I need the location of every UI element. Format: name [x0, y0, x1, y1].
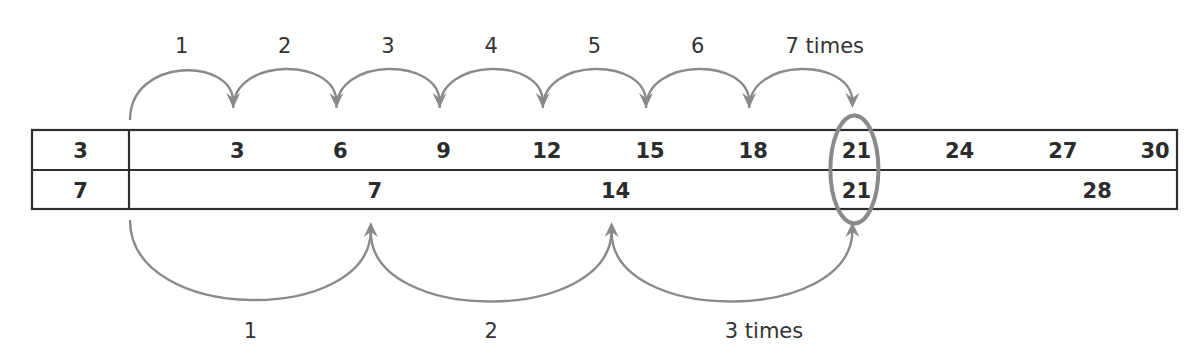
jump-label-top: 3 — [381, 34, 394, 58]
jump-label-bottom: 3 times — [725, 319, 803, 343]
cell-value: 3 — [230, 139, 245, 163]
cell-value: 27 — [1048, 139, 1077, 163]
jump-label-top: 4 — [485, 34, 498, 58]
cell-value: 7 — [367, 179, 382, 203]
jump-arc-top — [543, 69, 646, 108]
jump-arc-top — [440, 69, 543, 108]
cell-value: 30 — [1140, 139, 1169, 163]
jump-arc-top — [233, 69, 336, 108]
bottom-jump-arrows: 123 times — [130, 220, 859, 343]
jump-label-top: 7 times — [786, 34, 864, 58]
jump-label-bottom: 1 — [244, 319, 257, 343]
cell-value: 15 — [635, 139, 664, 163]
row-header-3: 3 — [73, 139, 88, 163]
jump-arc-top — [749, 69, 852, 108]
cell-value: 14 — [601, 179, 630, 203]
jump-arc-top — [130, 70, 233, 120]
jump-label-top: 2 — [278, 34, 291, 58]
cell-value: 12 — [532, 139, 561, 163]
cell-value: 18 — [739, 139, 768, 163]
jump-arc-bottom — [371, 230, 612, 302]
jump-label-top: 6 — [691, 34, 704, 58]
jump-label-top: 5 — [588, 34, 601, 58]
jump-arc-bottom — [612, 230, 853, 302]
cell-value: 21 — [842, 179, 871, 203]
cell-value: 9 — [436, 139, 451, 163]
top-jump-arrows: 1234567 times — [130, 34, 864, 120]
cell-value: 6 — [333, 139, 348, 163]
multiples-diagram: 33691215182124273077142128 1234567 times… — [0, 0, 1204, 361]
row-header-7: 7 — [73, 179, 88, 203]
diagram-canvas: 33691215182124273077142128 1234567 times… — [0, 0, 1204, 361]
jump-label-top: 1 — [175, 34, 188, 58]
cell-value: 28 — [1083, 179, 1112, 203]
cell-value: 21 — [842, 139, 871, 163]
jump-arc-bottom — [130, 220, 371, 300]
jump-arc-top — [336, 69, 439, 108]
jump-label-bottom: 2 — [485, 319, 498, 343]
cell-value: 24 — [945, 139, 974, 163]
jump-arc-top — [646, 69, 749, 108]
